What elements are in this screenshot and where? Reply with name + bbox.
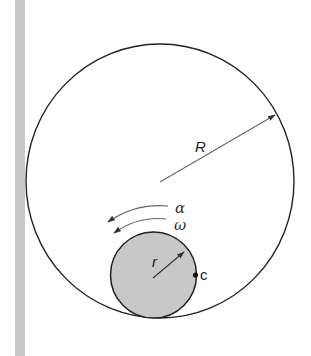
alpha-label: α xyxy=(175,199,185,217)
rolling-disk-diagram: R α ω r c xyxy=(0,0,311,356)
point-c-label: c xyxy=(200,266,208,283)
contact-point-dot xyxy=(193,272,198,277)
alpha-arrow xyxy=(108,206,168,222)
big-radius-label: R xyxy=(195,138,206,155)
inner-disk xyxy=(111,232,197,318)
omega-arrow xyxy=(114,219,166,233)
omega-label: ω xyxy=(174,216,186,234)
big-radius-arrow xyxy=(160,115,275,182)
